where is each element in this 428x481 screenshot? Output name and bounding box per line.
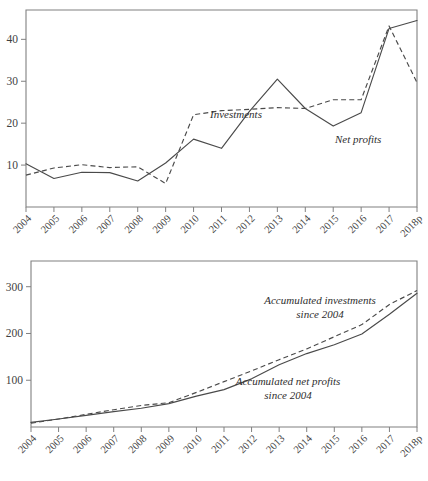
bottom-chart-axis-frame — [31, 261, 417, 427]
y-tick-label-20: 20 — [7, 117, 19, 129]
bottom-chart-x-tick-labels: 2004200520062007200820092010201120122013… — [16, 432, 425, 459]
x-tick-label-2018p: 2018p — [398, 433, 424, 459]
x-tick-label-2015: 2015 — [318, 213, 341, 236]
top-chart-x-ticks — [26, 207, 417, 212]
y-tick-label-200: 200 — [6, 327, 24, 339]
bottom-chart-x-ticks — [31, 427, 417, 432]
x-tick-label-2016: 2016 — [347, 433, 370, 456]
accumulated-investments-net-profits-chart: 100200300 200420052006200720082009201020… — [0, 255, 428, 481]
x-tick-label-2010: 2010 — [178, 213, 201, 236]
x-tick-label-2016: 2016 — [346, 213, 369, 236]
annotation-accumulated-net-profits-line1: Accumulated net profits — [235, 375, 341, 387]
x-tick-label-2008: 2008 — [126, 433, 149, 456]
x-tick-label-2013: 2013 — [264, 433, 287, 456]
x-tick-label-2017: 2017 — [374, 213, 397, 236]
x-tick-label-2005: 2005 — [43, 433, 66, 456]
x-tick-label-2012: 2012 — [234, 213, 257, 236]
top-chart-y-tick-labels: 10203040 — [7, 33, 19, 171]
annotation-investments: Investments — [209, 108, 262, 120]
annotation-accumulated-net-profits-line2: since 2004 — [264, 389, 312, 401]
annotation-accumulated-investments-line2: since 2004 — [296, 308, 344, 320]
x-tick-label-2007: 2007 — [99, 433, 122, 456]
y-tick-label-300: 300 — [6, 281, 24, 293]
x-tick-label-2014: 2014 — [292, 432, 315, 455]
x-tick-label-2010: 2010 — [181, 433, 204, 456]
x-tick-label-2009: 2009 — [154, 433, 177, 456]
x-tick-label-2006: 2006 — [71, 433, 94, 456]
x-tick-label-2004: 2004 — [16, 432, 39, 455]
x-tick-label-2015: 2015 — [319, 433, 342, 456]
top-chart-line-investments — [26, 26, 417, 184]
x-tick-label-2006: 2006 — [67, 213, 90, 236]
bottom-chart-line-accumulated-investments — [31, 290, 417, 423]
top-chart-y-ticks — [21, 39, 26, 165]
x-tick-label-2008: 2008 — [123, 213, 146, 236]
top-chart-x-tick-labels: 2004200520062007200820092010201120122013… — [11, 212, 425, 239]
annotation-accumulated-investments-line1: Accumulated investments — [263, 294, 376, 306]
x-tick-label-2013: 2013 — [262, 213, 285, 236]
y-tick-label-10: 10 — [7, 159, 19, 171]
x-tick-label-2017: 2017 — [374, 433, 397, 456]
y-tick-label-30: 30 — [7, 75, 19, 87]
bottom-chart-y-tick-labels: 100200300 — [6, 281, 24, 387]
x-tick-label-2011: 2011 — [209, 433, 231, 455]
x-tick-label-2007: 2007 — [95, 213, 118, 236]
x-tick-label-2009: 2009 — [150, 213, 173, 236]
bottom-chart-line-accumulated-net-profits — [31, 293, 417, 422]
x-tick-label-2014: 2014 — [290, 212, 313, 235]
x-tick-label-2011: 2011 — [207, 213, 229, 235]
y-tick-label-100: 100 — [6, 374, 24, 386]
x-tick-label-2012: 2012 — [236, 433, 259, 456]
bottom-chart-svg: 100200300 200420052006200720082009201020… — [0, 255, 428, 481]
bottom-chart-y-ticks — [26, 287, 31, 381]
y-tick-label-40: 40 — [7, 33, 19, 45]
x-tick-label-2018p: 2018p — [398, 213, 424, 239]
investments-net-profits-chart: 10203040 2004200520062007200820092010201… — [0, 0, 428, 255]
annotation-net-profits: Net profits — [334, 133, 381, 145]
x-tick-label-2004: 2004 — [11, 212, 34, 235]
top-chart-line-net-profits — [26, 20, 417, 181]
x-tick-label-2005: 2005 — [39, 213, 62, 236]
top-chart-svg: 10203040 2004200520062007200820092010201… — [0, 0, 428, 255]
